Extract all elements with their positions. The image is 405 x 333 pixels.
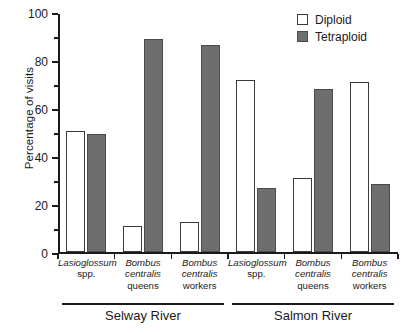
category-genus: Bombus [341,257,398,268]
legend: Diploid Tetraploid [297,11,367,45]
category-label-0: Lasioglossumspp. [58,257,115,280]
category-label-1: Bombuscentralisqueens [115,257,172,291]
y-tick-minor [54,181,58,182]
bar-chart-figure: Percentage of visits 020406080100 Diploi… [0,0,405,333]
y-tick-label: 60 [35,103,48,117]
river-group-rule-0 [62,303,224,305]
y-tick-minor [54,85,58,86]
bar-diploid-4 [293,178,312,252]
category-genus: Lasioglossum [228,257,285,268]
bar-diploid-1 [123,226,142,252]
river-group-rule-1 [232,303,394,305]
filled-square-icon [297,31,308,42]
bar-diploid-2 [180,222,199,252]
category-detail: centralis [341,268,398,279]
category-genus: Bombus [115,257,172,268]
y-tick-80: 80 [52,61,58,62]
bar-tetraploid-5 [371,184,390,252]
category-detail-2: queens [285,280,342,291]
bar-diploid-5 [350,82,369,252]
bar-tetraploid-0 [87,134,106,253]
category-genus: Bombus [285,257,342,268]
plot-area: 020406080100 [58,14,398,254]
category-detail-2: workers [341,280,398,291]
category-label-4: Bombuscentralisqueens [285,257,342,291]
y-tick-20: 20 [52,205,58,206]
legend-label-diploid: Diploid [315,13,352,27]
category-label-2: Bombuscentralisworkers [171,257,228,291]
open-square-icon [297,14,308,25]
y-tick-minor [54,37,58,38]
bar-diploid-0 [66,131,85,252]
legend-label-tetraploid: Tetraploid [315,30,367,44]
category-detail-2: queens [115,280,172,291]
category-label-5: Bombuscentralisworkers [341,257,398,291]
category-genus: Lasioglossum [58,257,115,268]
category-detail: spp. [58,268,115,279]
bar-tetraploid-4 [314,89,333,252]
bar-tetraploid-1 [144,39,163,253]
category-genus: Bombus [171,257,228,268]
y-tick-60: 60 [52,109,58,110]
y-axis-line [58,14,60,254]
category-label-3: Lasioglossumspp. [228,257,285,280]
bar-tetraploid-3 [257,188,276,253]
bar-tetraploid-2 [201,45,220,253]
y-tick-label: 100 [28,7,48,21]
category-detail: centralis [171,268,228,279]
y-tick-minor [54,133,58,134]
category-detail-2: workers [171,280,228,291]
y-tick-label: 0 [41,247,48,261]
y-tick-label: 80 [35,55,48,69]
x-axis-category-labels: Lasioglossumspp.BombuscentralisqueensBom… [58,257,398,301]
category-detail: centralis [285,268,342,279]
y-axis-label: Percentage of visits [23,38,35,198]
y-tick-100: 100 [52,13,58,14]
bar-diploid-3 [236,80,255,253]
category-detail: centralis [115,268,172,279]
river-group-label-0: Selway River [62,308,224,323]
y-tick-label: 40 [35,151,48,165]
y-tick-40: 40 [52,157,58,158]
y-tick-label: 20 [35,199,48,213]
legend-item-diploid: Diploid [297,11,367,28]
category-detail: spp. [228,268,285,279]
y-tick-minor [54,229,58,230]
legend-item-tetraploid: Tetraploid [297,28,367,45]
river-group-label-1: Salmon River [232,308,394,323]
